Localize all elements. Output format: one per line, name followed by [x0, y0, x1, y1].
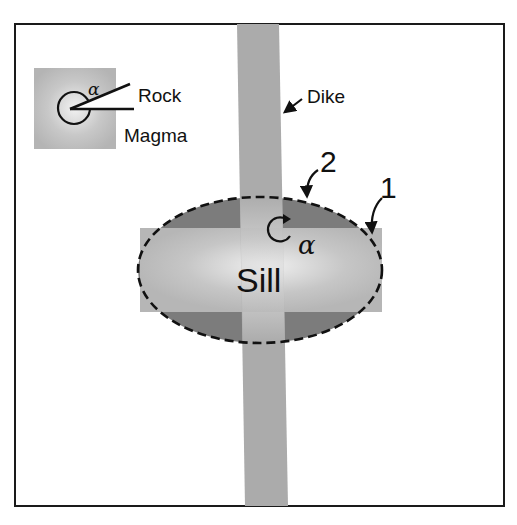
boundary-2-label: 2 [320, 145, 337, 178]
magma-label: Magma [124, 125, 188, 146]
rock-label: Rock [138, 85, 182, 106]
corner-alpha-label: α [298, 230, 316, 260]
inset-alpha-label: α [88, 79, 100, 99]
diagram-canvas: α Rock Magma Sill α Dike 2 1 [0, 0, 517, 525]
sill-label: Sill [236, 261, 281, 299]
dike-sill-diagram: α Rock Magma Sill α Dike 2 1 [0, 0, 517, 525]
dike-label: Dike [307, 86, 345, 107]
